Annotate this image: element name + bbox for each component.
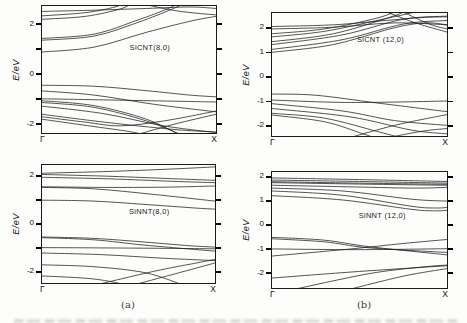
y-tick-right bbox=[216, 175, 221, 177]
band-structure-figure: SiCNT(8,0) E/eV Γ X 20-2 SiCNT (12,0) E/… bbox=[0, 0, 467, 323]
x-axis-start-label: Γ bbox=[40, 134, 45, 144]
band-line bbox=[272, 178, 447, 182]
band-lines-svg bbox=[272, 13, 447, 136]
y-tick-label: 2 bbox=[20, 20, 34, 28]
band-line bbox=[42, 167, 215, 173]
y-tick-right bbox=[448, 272, 453, 274]
y-tick-label: 2 bbox=[250, 172, 264, 180]
panel-sinnt-12-0: SiNNT (12,0) E/eV Γ X 210-1-2 bbox=[271, 171, 448, 289]
band-line bbox=[42, 177, 215, 182]
y-tick-left bbox=[266, 224, 271, 226]
y-tick-left bbox=[266, 200, 271, 202]
band-line bbox=[42, 253, 215, 261]
band-line bbox=[42, 186, 215, 187]
y-tick-left bbox=[266, 76, 271, 78]
y-tick-right bbox=[217, 23, 222, 25]
band-lines-svg bbox=[42, 165, 215, 283]
band-line bbox=[272, 191, 447, 208]
band-line bbox=[272, 266, 447, 278]
y-tick-right bbox=[448, 52, 453, 54]
y-tick-right bbox=[217, 98, 222, 100]
y-tick-label: 0 bbox=[20, 70, 34, 78]
y-tick-left bbox=[36, 23, 41, 25]
y-tick-right bbox=[217, 123, 222, 125]
y-tick-right bbox=[448, 224, 453, 226]
y-tick-label: 2 bbox=[20, 171, 34, 179]
y-tick-left bbox=[36, 223, 41, 225]
y-tick-left bbox=[266, 248, 271, 250]
y-tick-right bbox=[216, 247, 221, 249]
y-tick-label: -1 bbox=[250, 245, 264, 253]
band-line bbox=[132, 263, 215, 283]
band-line bbox=[272, 188, 447, 201]
y-tick-right bbox=[216, 223, 221, 225]
y-tick-label: -2 bbox=[250, 121, 264, 129]
panel-sicnt-12-0: SiCNT (12,0) E/eV Γ X 210-1-2 bbox=[271, 12, 448, 137]
y-tick-left bbox=[36, 123, 41, 125]
y-tick-left bbox=[266, 27, 271, 29]
band-line bbox=[42, 238, 215, 251]
panel-title: SiCNT (12,0) bbox=[357, 34, 404, 43]
y-tick-label: 0 bbox=[250, 72, 264, 80]
y-tick-right bbox=[216, 271, 221, 273]
y-tick-right bbox=[448, 27, 453, 29]
y-tick-label: 0 bbox=[250, 220, 264, 228]
x-axis-start-label: Γ bbox=[270, 137, 275, 147]
x-axis-end-label: X bbox=[211, 134, 217, 144]
band-line bbox=[42, 276, 129, 283]
y-tick-label: -1 bbox=[250, 97, 264, 105]
band-line bbox=[272, 109, 447, 134]
band-line bbox=[272, 185, 447, 188]
y-tick-left bbox=[36, 199, 41, 201]
panel-title: SiNNT(8,0) bbox=[129, 207, 170, 216]
x-axis-end-label: X bbox=[442, 137, 448, 147]
y-tick-label: 0 bbox=[20, 219, 34, 227]
band-line bbox=[42, 248, 215, 249]
y-tick-label: 1 bbox=[250, 196, 264, 204]
band-line bbox=[42, 99, 216, 102]
y-tick-left bbox=[36, 98, 41, 100]
y-tick-left bbox=[266, 176, 271, 178]
x-axis-end-label: X bbox=[442, 289, 448, 299]
y-tick-left bbox=[266, 52, 271, 54]
y-tick-left bbox=[36, 247, 41, 249]
band-line bbox=[272, 239, 447, 256]
y-tick-right bbox=[217, 73, 222, 75]
y-tick-right bbox=[216, 199, 221, 201]
y-tick-label: -2 bbox=[20, 267, 34, 275]
subfigure-caption-b: (b) bbox=[357, 299, 371, 310]
band-line bbox=[42, 265, 184, 283]
panel-sicnt-8-0: SiCNT(8,0) E/eV Γ X 20-2 bbox=[41, 5, 217, 134]
y-tick-left bbox=[36, 271, 41, 273]
y-tick-label: -2 bbox=[20, 120, 34, 128]
y-tick-left bbox=[36, 175, 41, 177]
y-tick-right bbox=[448, 200, 453, 202]
band-line bbox=[42, 106, 216, 132]
y-tick-right bbox=[448, 76, 453, 78]
band-line bbox=[272, 249, 447, 250]
panel-title: SiCNT(8,0) bbox=[130, 42, 171, 51]
y-tick-label: 2 bbox=[250, 23, 264, 31]
y-tick-right bbox=[448, 101, 453, 103]
x-axis-start-label: Γ bbox=[40, 284, 45, 294]
x-axis-start-label: Γ bbox=[270, 289, 275, 299]
band-lines-svg bbox=[272, 172, 447, 288]
band-lines-svg bbox=[42, 6, 216, 133]
cropped-caption-remnant bbox=[14, 319, 459, 323]
band-line bbox=[42, 85, 216, 97]
y-tick-right bbox=[448, 125, 453, 127]
y-tick-left bbox=[266, 272, 271, 274]
band-line bbox=[42, 187, 215, 201]
y-tick-right bbox=[448, 248, 453, 250]
y-tick-left bbox=[266, 125, 271, 127]
panel-title: SiNNT (12,0) bbox=[359, 210, 406, 219]
y-tick-left bbox=[36, 73, 41, 75]
y-tick-left bbox=[266, 101, 271, 103]
y-tick-left bbox=[36, 48, 41, 50]
y-tick-right bbox=[217, 48, 222, 50]
band-line bbox=[272, 180, 447, 183]
band-line bbox=[377, 129, 447, 136]
subfigure-caption-a: (a) bbox=[121, 299, 135, 310]
band-line bbox=[42, 7, 216, 11]
y-tick-right bbox=[448, 176, 453, 178]
